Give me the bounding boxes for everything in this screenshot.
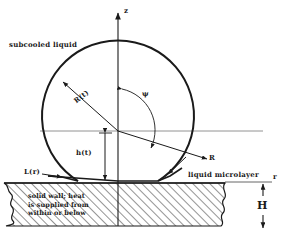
label-subcooled-liquid: subcooled liquid [9, 40, 77, 49]
label-liquid-microlayer: liquid microlayer [188, 170, 259, 179]
label-r-axis: r [273, 172, 277, 181]
label-wall-thickness: H [257, 199, 267, 212]
wall-description-line-3: within or below [28, 209, 89, 218]
microlayer-right-wedge [158, 168, 182, 181]
wall-description-line-2: is supplied from [28, 201, 89, 210]
radius-indicator [63, 82, 118, 131]
label-microlayer-length: L(r) [24, 167, 40, 176]
label-radial-arrow: R [209, 153, 215, 162]
wall-description-line-1: solid wall; heat [28, 192, 89, 201]
angle-arc-psi [122, 89, 155, 148]
label-bubble-height: h(t) [76, 148, 92, 157]
radial-direction-line [118, 131, 207, 159]
wall-description-block: solid wall; heat is supplied from within… [28, 192, 89, 218]
height-dimension-h [99, 133, 112, 180]
label-z-axis: z [124, 6, 128, 15]
bubble-growth-diagram: subcooled liquid R(t) h(t) ψ R L(r) liqu… [0, 0, 281, 233]
microlayer-film-line [48, 176, 158, 181]
label-angle-psi: ψ [142, 89, 149, 98]
